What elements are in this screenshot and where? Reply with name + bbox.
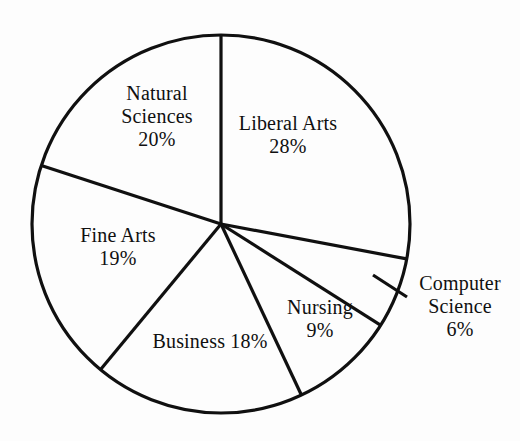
slice-label-natural-sciences: Natural Sciences 20%	[92, 82, 222, 152]
slice-label-business: Business 18%	[130, 330, 290, 353]
pie-chart-figure: Natural Sciences 20% Liberal Arts 28% Fi…	[0, 0, 520, 441]
slice-label-business-name: Business	[152, 330, 225, 352]
slice-label-computer-science: Computer Science 6%	[404, 272, 516, 342]
slice-value-nursing: 9%	[272, 319, 368, 342]
slice-label-computer-science-line1: Computer	[404, 272, 516, 295]
slice-label-fine-arts-name: Fine Arts	[54, 224, 182, 247]
slice-label-natural-sciences-line1: Natural	[92, 82, 222, 105]
slice-value-fine-arts: 19%	[54, 247, 182, 270]
pie-chart-graphic	[0, 0, 520, 441]
slice-label-fine-arts: Fine Arts 19%	[54, 224, 182, 270]
slice-label-liberal-arts-name: Liberal Arts	[218, 112, 358, 135]
slice-boundary-fine-arts-natural-sciences	[41, 166, 221, 224]
slice-label-computer-science-line2: Science	[404, 295, 516, 318]
slice-label-liberal-arts: Liberal Arts 28%	[218, 112, 358, 158]
slice-value-liberal-arts: 28%	[218, 135, 358, 158]
slice-value-computer-science: 6%	[404, 318, 516, 341]
slice-label-natural-sciences-line2: Sciences	[92, 105, 222, 128]
slice-label-nursing-name: Nursing	[272, 296, 368, 319]
slice-label-nursing: Nursing 9%	[272, 296, 368, 342]
slice-value-business: 18%	[230, 330, 267, 352]
slice-value-natural-sciences: 20%	[92, 128, 222, 151]
